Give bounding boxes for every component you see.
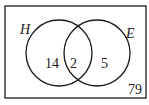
- set-e-circle: [64, 20, 130, 86]
- set-h-label: H: [19, 22, 31, 37]
- intersection-count: 2: [70, 56, 77, 71]
- outside-count: 79: [128, 82, 142, 97]
- set-h-circle: [26, 20, 92, 86]
- e-only-count: 5: [101, 56, 108, 71]
- h-only-count: 14: [45, 56, 59, 71]
- set-e-label: E: [125, 26, 135, 41]
- venn-diagram: H E 14 2 5 79: [0, 0, 149, 105]
